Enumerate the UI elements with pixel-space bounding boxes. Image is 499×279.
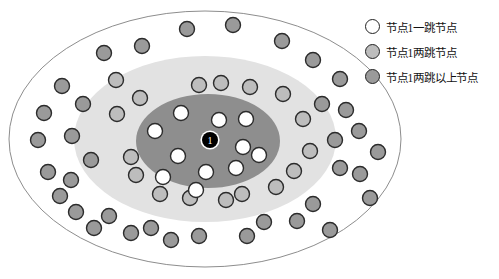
beyond-two-hop-node — [240, 229, 255, 244]
one-hop-node — [236, 140, 251, 155]
beyond-two-hop-node — [53, 189, 68, 204]
network-hop-diagram: 1 节点1一跳节点 节点1两跳节点 节点1两跳以上节点 — [0, 0, 499, 279]
legend-one-hop-label: 节点1一跳节点 — [386, 19, 456, 35]
two-hop-node — [153, 187, 168, 202]
legend-two-hop-label: 节点1两跳节点 — [386, 44, 456, 60]
two-hop-node — [276, 87, 291, 102]
legend-beyond-two-hop-swatch-icon — [365, 69, 380, 84]
beyond-two-hop-node — [371, 145, 386, 160]
legend-two-hop-swatch-icon — [365, 44, 380, 59]
legend-one-hop-swatch-icon — [365, 19, 380, 34]
beyond-two-hop-node — [339, 103, 354, 118]
beyond-two-hop-node — [37, 106, 52, 121]
legend-item: 节点1两跳以上节点 — [365, 64, 493, 89]
two-hop-node — [124, 150, 139, 165]
beyond-two-hop-node — [323, 223, 338, 238]
beyond-two-hop-node — [102, 209, 117, 224]
one-hop-node — [171, 149, 186, 164]
beyond-two-hop-node — [328, 133, 343, 148]
one-hop-node — [189, 183, 204, 198]
beyond-two-hop-node — [290, 214, 305, 229]
beyond-two-hop-node — [144, 221, 159, 236]
legend-beyond-two-hop-label: 节点1两跳以上节点 — [386, 69, 478, 85]
one-hop-node — [239, 112, 254, 127]
beyond-two-hop-node — [333, 161, 348, 176]
beyond-two-hop-node — [257, 215, 272, 230]
two-hop-node — [269, 180, 284, 195]
beyond-two-hop-node — [69, 205, 84, 220]
beyond-two-hop-node — [180, 22, 195, 37]
one-hop-node — [252, 148, 267, 163]
two-hop-node — [129, 168, 144, 183]
beyond-two-hop-node — [87, 221, 102, 236]
beyond-two-hop-node — [192, 229, 207, 244]
beyond-two-hop-node — [65, 129, 80, 144]
two-hop-node — [287, 164, 302, 179]
one-hop-node — [212, 113, 227, 128]
beyond-two-hop-node — [315, 97, 330, 112]
beyond-two-hop-node — [363, 191, 378, 206]
two-hop-node — [192, 78, 207, 93]
legend-item: 节点1两跳节点 — [365, 39, 493, 64]
beyond-two-hop-node — [275, 34, 290, 49]
beyond-two-hop-node — [333, 72, 348, 87]
beyond-two-hop-node — [55, 79, 70, 94]
two-hop-node — [296, 112, 311, 127]
beyond-two-hop-node — [306, 53, 321, 68]
beyond-two-hop-node — [135, 39, 150, 54]
two-hop-node — [303, 144, 318, 159]
two-hop-node — [214, 76, 229, 91]
legend-item: 节点1一跳节点 — [365, 14, 493, 39]
one-hop-node — [229, 161, 244, 176]
one-hop-node — [174, 106, 189, 121]
beyond-two-hop-node — [352, 124, 367, 139]
beyond-two-hop-node — [76, 97, 91, 112]
two-hop-node — [109, 73, 124, 88]
two-hop-node — [133, 91, 148, 106]
beyond-two-hop-node — [164, 233, 179, 248]
beyond-two-hop-node — [226, 18, 241, 33]
beyond-two-hop-node — [306, 197, 321, 212]
one-hop-node — [156, 170, 171, 185]
beyond-two-hop-node — [84, 153, 99, 168]
two-hop-node — [219, 193, 234, 208]
two-hop-node — [235, 187, 250, 202]
two-hop-node — [110, 107, 125, 122]
center-node-layer: 1 — [200, 130, 219, 149]
beyond-two-hop-node — [64, 173, 79, 188]
center-node-label: 1 — [208, 135, 213, 146]
one-hop-node — [199, 165, 214, 180]
beyond-two-hop-node — [124, 226, 139, 241]
two-hop-node — [243, 80, 258, 95]
beyond-two-hop-node — [353, 167, 368, 182]
beyond-two-hop-node — [41, 165, 56, 180]
one-hop-node — [148, 124, 163, 139]
beyond-two-hop-node — [31, 133, 46, 148]
beyond-two-hop-node — [97, 46, 112, 61]
legend: 节点1一跳节点 节点1两跳节点 节点1两跳以上节点 — [365, 14, 493, 89]
